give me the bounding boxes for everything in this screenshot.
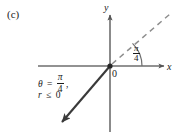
panel-label-c: (c) (7, 9, 19, 20)
condition-theta-line: θ = π 4 , (38, 74, 68, 90)
y-axis-label: y (104, 3, 108, 13)
inequality-sign: ≤ (44, 90, 53, 100)
condition-label: θ = π 4 , r ≤ 0 (38, 74, 68, 105)
angle-fraction-numerator: π (133, 44, 140, 53)
condition-r-line: r ≤ 0 (38, 91, 68, 105)
r-symbol: r (38, 90, 42, 100)
angle-fraction-denominator: 4 (133, 54, 140, 64)
angle-fraction: π 4 (133, 44, 140, 64)
figure-canvas (0, 0, 177, 138)
x-axis-label: x (167, 62, 171, 72)
solid-ray-graph (62, 66, 110, 122)
origin-label: 0 (112, 69, 117, 79)
theta-fraction-numerator: π (57, 73, 64, 83)
angle-measure-label: π 4 (133, 45, 140, 65)
equals-sign: = (45, 79, 54, 89)
condition-comma: , (66, 79, 68, 89)
theta-symbol: θ (38, 79, 43, 89)
r-value: 0 (56, 90, 61, 100)
polar-graph-figure: (c) y x 0 π 4 θ = π 4 , r ≤ 0 (0, 0, 177, 138)
